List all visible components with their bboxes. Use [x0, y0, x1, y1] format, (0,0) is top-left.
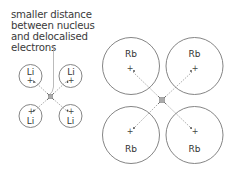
- annotation-leader-line: [48, 46, 54, 96]
- metallic-bonding-diagram: Li + Li + + Li + Li: [0, 0, 228, 170]
- rb-atom-bottom-right: + Rb: [166, 107, 223, 164]
- svg-text:Rb: Rb: [189, 49, 201, 59]
- lithium-lattice: Li + Li + + Li + Li: [19, 65, 82, 128]
- svg-text:+: +: [27, 76, 34, 85]
- svg-text:+: +: [68, 107, 75, 116]
- svg-text:Rb: Rb: [125, 49, 137, 59]
- rb-atom-top-left: Rb +: [103, 38, 160, 95]
- svg-text:Li: Li: [27, 116, 35, 126]
- li-atom-bottom-left: + Li: [19, 105, 42, 128]
- svg-text:+: +: [68, 76, 75, 85]
- svg-text:+: +: [127, 127, 134, 136]
- svg-text:+: +: [28, 107, 35, 116]
- svg-text:+: +: [127, 64, 134, 73]
- delocalised-electrons-rb: [158, 96, 166, 104]
- svg-text:+: +: [192, 127, 199, 136]
- rb-atom-bottom-left: + Rb: [103, 107, 160, 164]
- li-atom-top-left: Li +: [19, 65, 42, 88]
- rubidium-lattice: Rb + Rb + + Rb + Rb: [103, 38, 224, 164]
- svg-text:Li: Li: [67, 116, 75, 126]
- svg-text:Rb: Rb: [125, 144, 137, 154]
- li-atom-top-right: Li +: [59, 65, 82, 88]
- svg-text:+: +: [192, 64, 199, 73]
- svg-text:Rb: Rb: [189, 144, 201, 154]
- rb-atom-top-right: Rb +: [166, 38, 223, 95]
- li-atom-bottom-right: + Li: [59, 105, 82, 128]
